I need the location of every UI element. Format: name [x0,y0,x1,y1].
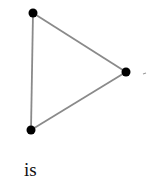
edges [31,13,126,130]
edge-b-c [31,72,126,130]
trailing-mark [143,73,146,74]
vertex-c [27,126,36,135]
edge-a-b [33,13,126,72]
edge-c-a [31,13,33,130]
vertex-b [122,68,131,77]
vertex-a [29,9,38,18]
triangle-graph [0,0,152,181]
caption-text: is [24,160,37,179]
vertices [27,9,131,135]
